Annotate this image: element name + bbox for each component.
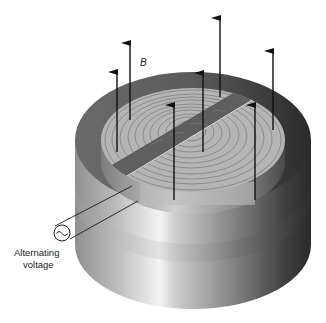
source-label-line1: Alternating [14, 247, 59, 258]
diagram-canvas: B Alternating voltage [0, 0, 326, 323]
coil-platform [101, 86, 285, 214]
source-label-line2: voltage [23, 259, 54, 270]
ac-voltage-source [54, 225, 70, 241]
induction-diagram: B Alternating voltage [0, 0, 326, 323]
field-label-b: B [140, 57, 147, 68]
